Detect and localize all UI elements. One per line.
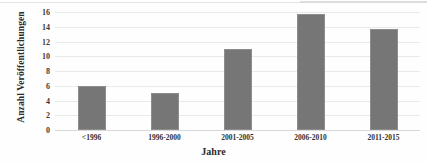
bar[interactable] — [297, 14, 325, 130]
bar[interactable] — [370, 29, 398, 130]
gridline — [55, 130, 420, 131]
x-axis-title: Jahre — [0, 146, 427, 157]
y-axis-tick-label: 4 — [30, 96, 50, 105]
bar-chart-figure: Anzahl Veröffentlichungen 0246810121416 … — [0, 0, 427, 164]
gridline — [55, 12, 420, 13]
y-axis-tick-label: 8 — [30, 67, 50, 76]
y-axis-tick-label: 10 — [30, 52, 50, 61]
y-axis-tick-label: 0 — [30, 126, 50, 135]
gridline — [55, 42, 420, 43]
y-axis-tick-label: 16 — [30, 8, 50, 17]
y-axis-tick-label: 6 — [30, 81, 50, 90]
scan-artifact-line-right — [300, 1, 427, 3]
bar[interactable] — [224, 49, 252, 130]
y-axis-title: Anzahl Veröffentlichungen — [16, 7, 26, 127]
y-axis-tick-label: 14 — [30, 22, 50, 31]
y-axis-tick-labels: 0246810121416 — [28, 0, 50, 164]
gridline — [55, 27, 420, 28]
x-axis-tick-label: 2006-2010 — [294, 133, 327, 142]
x-axis-tick-label: 1996-2000 — [148, 133, 181, 142]
bar[interactable] — [151, 93, 179, 130]
bar[interactable] — [78, 86, 106, 130]
x-axis-tick-label: 2001-2005 — [221, 133, 254, 142]
x-axis-tick-label: 2011-2015 — [367, 133, 399, 142]
y-axis-tick-label: 12 — [30, 37, 50, 46]
y-axis-tick-label: 2 — [30, 111, 50, 120]
x-axis-tick-label: <1996 — [82, 133, 101, 142]
plot-area — [55, 12, 420, 130]
x-axis-tick-labels: <19961996-20002001-20052006-20102011-201… — [55, 133, 420, 147]
